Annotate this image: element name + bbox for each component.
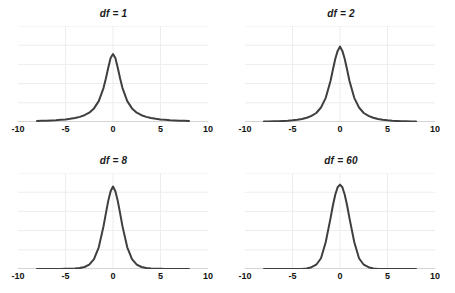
density-plot-svg (18, 26, 208, 122)
plot-area (18, 26, 208, 122)
chart-panel: df = 60-10-50510 (227, 147, 455, 293)
panel-title: df = 2 (227, 8, 455, 19)
x-tick-label: -10 (238, 271, 251, 281)
x-tick-label: 10 (430, 124, 440, 134)
x-tick-label: -10 (238, 124, 251, 134)
x-tick-label: 10 (203, 124, 213, 134)
distribution-panel-grid: df = 1-10-50510df = 2-10-50510df = 8-10-… (0, 0, 455, 293)
x-tick-label: 5 (385, 271, 390, 281)
x-tick-label: -10 (11, 124, 24, 134)
x-tick-label: 5 (158, 271, 163, 281)
plot-area (18, 173, 208, 269)
chart-panel: df = 8-10-50510 (0, 147, 227, 293)
panel-title: df = 60 (227, 155, 455, 166)
density-plot-svg (18, 173, 208, 269)
x-tick-label: 0 (337, 124, 342, 134)
x-tick-label: -10 (11, 271, 24, 281)
density-plot-svg (245, 26, 435, 122)
x-axis-tick-labels: -10-50510 (0, 124, 227, 138)
x-tick-label: 5 (385, 124, 390, 134)
x-axis-tick-labels: -10-50510 (227, 271, 455, 285)
x-tick-label: -5 (61, 271, 69, 281)
x-tick-label: 0 (337, 271, 342, 281)
x-tick-label: 0 (110, 271, 115, 281)
plot-area (245, 26, 435, 122)
x-tick-label: -5 (288, 124, 296, 134)
x-tick-label: -5 (288, 271, 296, 281)
panel-title: df = 8 (0, 155, 227, 166)
x-tick-label: 5 (158, 124, 163, 134)
x-tick-label: 0 (110, 124, 115, 134)
x-tick-label: -5 (61, 124, 69, 134)
x-tick-label: 10 (430, 271, 440, 281)
panel-title: df = 1 (0, 8, 227, 19)
chart-panel: df = 2-10-50510 (227, 0, 455, 147)
x-tick-label: 10 (203, 271, 213, 281)
chart-panel: df = 1-10-50510 (0, 0, 227, 147)
x-axis-tick-labels: -10-50510 (0, 271, 227, 285)
x-axis-tick-labels: -10-50510 (227, 124, 455, 138)
plot-area (245, 173, 435, 269)
density-plot-svg (245, 173, 435, 269)
